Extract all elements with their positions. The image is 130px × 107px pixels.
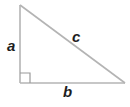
label-c: c bbox=[72, 28, 81, 45]
label-a: a bbox=[7, 37, 15, 54]
right-angle-marker bbox=[20, 73, 30, 83]
right-triangle-diagram: a c b bbox=[0, 0, 130, 107]
label-b: b bbox=[63, 83, 72, 100]
